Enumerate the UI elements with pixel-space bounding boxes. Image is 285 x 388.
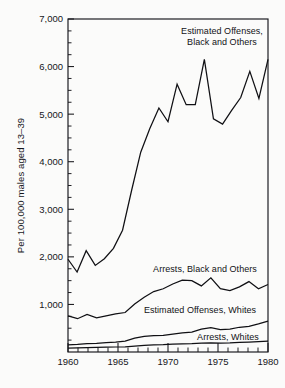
x-tick-label-1970: 1970 [157,356,178,367]
y-tick-label-6000: 6,000 [39,61,63,72]
chart-background [0,0,285,388]
series-label-arrests-black-others: Arrests, Black and Others [153,264,257,274]
series-label-offenses-black-others: Estimated Offenses,Black and Others [181,26,263,47]
series-label-arrests-whites: Arrests, Whites [197,332,259,342]
x-tick-label-1975: 1975 [207,356,228,367]
y-tick-label-7000: 7,000 [39,13,63,24]
y-tick-label-5000: 5,000 [39,109,63,120]
x-tick-label-1965: 1965 [107,356,128,367]
y-tick-label-1000: 1,000 [39,299,63,310]
offense-arrest-rate-line-chart: Per 100,000 males aged 13–39 1,0002,0003… [0,0,285,388]
y-axis-title-text: Per 100,000 males aged 13–39 [15,118,26,253]
x-tick-label-1960: 1960 [57,356,78,367]
x-tick-label-1980: 1980 [257,356,278,367]
series-label-offenses-whites: Estimated Offenses, Whites [144,305,257,315]
y-tick-label-4000: 4,000 [39,156,63,167]
y-tick-label-3000: 3,000 [39,204,63,215]
y-axis-title: Per 100,000 males aged 13–39 [15,118,26,253]
y-tick-label-2000: 2,000 [39,251,63,262]
